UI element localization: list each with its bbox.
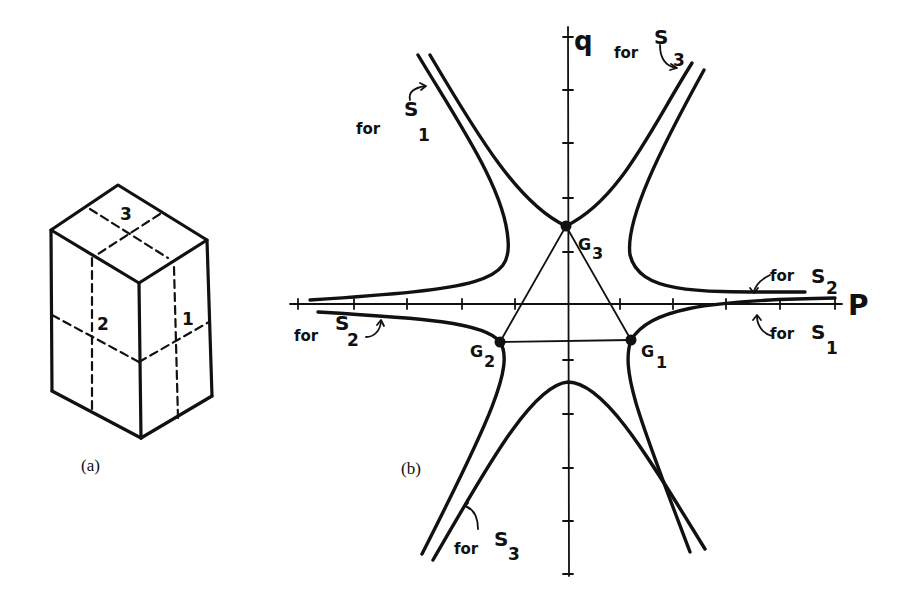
annotation-left-lower-s2: for S 2	[294, 311, 359, 350]
q-axis-label: q	[574, 26, 593, 56]
point-g2	[495, 337, 506, 348]
svg-text:1: 1	[656, 353, 667, 372]
arrow-bottom-left	[466, 506, 478, 529]
svg-text:for: for	[770, 267, 795, 285]
annotation-upper-right-s3: for S 3	[614, 25, 685, 70]
figure-canvas: 3 2 1 (a)	[0, 0, 908, 601]
svg-text:2: 2	[484, 352, 495, 371]
box-bottom-left-edge	[52, 391, 141, 438]
pq-plane-diagram: q P G	[290, 25, 869, 576]
svg-text:1: 1	[826, 338, 838, 358]
curve-right-g1-branch	[628, 298, 835, 552]
curve-upper-right-outer	[630, 70, 805, 292]
svg-text:2: 2	[826, 278, 838, 298]
svg-text:S: S	[404, 97, 418, 121]
p-axis-label: P	[848, 289, 869, 322]
face-label-3: 3	[120, 204, 132, 224]
caption-b: (b)	[401, 459, 421, 478]
label-g3: G 3	[578, 235, 603, 263]
point-g3	[561, 221, 572, 232]
svg-text:for: for	[454, 540, 479, 558]
point-g1	[626, 335, 637, 346]
hyperbola-curves	[310, 55, 835, 560]
svg-text:S: S	[811, 264, 825, 288]
annotation-right-lower-s1: for S 1	[770, 320, 838, 358]
svg-text:S: S	[811, 320, 825, 344]
svg-text:3: 3	[508, 544, 520, 564]
svg-text:for: for	[294, 327, 319, 345]
svg-text:for: for	[356, 120, 381, 138]
svg-text:S: S	[654, 25, 668, 49]
svg-text:S: S	[494, 527, 508, 551]
label-g1: G 1	[641, 342, 667, 372]
curve-upper-left-outer	[310, 55, 508, 300]
face-label-1: 1	[182, 309, 194, 329]
annotation-upper-left-s1: for S 1	[356, 97, 430, 145]
svg-text:G: G	[641, 342, 654, 361]
face-label-2: 2	[97, 314, 109, 334]
box-right-edge	[207, 240, 212, 396]
caption-a: (a)	[81, 456, 100, 475]
annotation-bottom-left-s3: for S 3	[454, 527, 520, 564]
svg-text:3: 3	[673, 50, 685, 70]
svg-text:1: 1	[418, 125, 430, 145]
svg-text:3: 3	[592, 244, 603, 263]
box-diagram: 3 2 1 (a)	[51, 185, 212, 475]
triangle-g1-g2-g3	[500, 226, 631, 342]
svg-text:G: G	[470, 342, 483, 361]
box-left-edge	[51, 230, 52, 391]
curve-upper-right-inner	[566, 63, 692, 226]
label-g2: G 2	[470, 342, 495, 371]
svg-text:2: 2	[347, 330, 359, 350]
q-axis	[568, 27, 569, 576]
svg-text:G: G	[578, 235, 591, 254]
svg-text:for: for	[770, 325, 795, 343]
svg-text:for: for	[614, 44, 639, 62]
